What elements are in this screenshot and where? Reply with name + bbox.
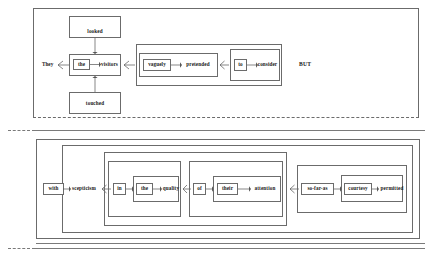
bottom-rule-dash-left (8, 248, 30, 249)
node-noun-quality: quality (161, 183, 181, 195)
clause-marker-but: BUT (299, 62, 311, 68)
node-verb-consider: consider (256, 59, 279, 71)
node-object-visitors: visitors (99, 59, 120, 70)
node-verb-permitted: permitted (378, 183, 406, 195)
node-adverb-vaguely: vaguely (143, 59, 171, 71)
node-subject-they: They (42, 62, 53, 67)
node-infinitive-to: to (234, 59, 247, 71)
node-noun-courtesy: courtesy (344, 183, 372, 195)
node-preposition-with: with (43, 183, 64, 195)
node-verb-touched: touched (69, 99, 121, 108)
node-determiner-the: the (73, 59, 90, 70)
bottom-rule-inner (36, 243, 425, 244)
panel-divider-rule (32, 130, 425, 131)
node-conjunction-sofaras: so-far-as (301, 183, 334, 195)
node-determiner-the-lower: the (136, 183, 153, 195)
node-noun-scepticism: scepticism (68, 183, 100, 195)
panel-divider-dash-left (8, 130, 30, 131)
bottom-rule-outer (32, 248, 425, 249)
node-preposition-in: in (113, 183, 126, 195)
node-noun-attention: attention (250, 183, 280, 195)
diagram-canvas: They the visitors looked touched vaguely (0, 0, 429, 260)
node-verb-pretended: pretended (180, 59, 216, 71)
node-verb-looked: looked (69, 27, 121, 36)
node-preposition-of: of (193, 183, 206, 195)
node-possessive-their: their (217, 183, 238, 195)
